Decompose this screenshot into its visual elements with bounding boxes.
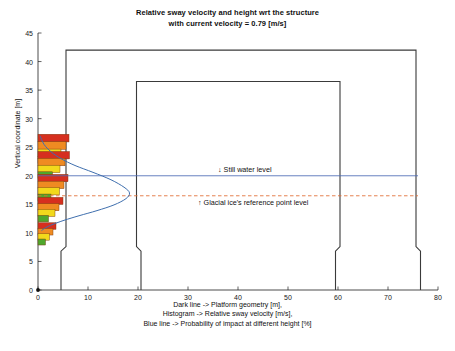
platform-inner-geometry — [137, 82, 341, 290]
y-tick-label: 15 — [14, 201, 33, 208]
caption-line-2: Histogram -> Relative sway velocity [m/s… — [0, 309, 455, 318]
histogram-bar — [38, 134, 69, 142]
y-tick-label: 30 — [14, 115, 33, 122]
y-tick-label: 5 — [14, 258, 33, 265]
histogram-bar — [38, 142, 66, 150]
y-tick-label: 0 — [14, 287, 33, 294]
chart-caption: Dark line -> Platform geometry [m], Hist… — [0, 300, 455, 328]
histogram-bar — [38, 165, 60, 172]
caption-line-3: Blue line -> Probability of impact at di… — [0, 319, 455, 328]
figure-canvas: Relative sway velocity and height wrt th… — [0, 0, 455, 351]
histogram-bar — [38, 239, 46, 245]
y-tick-label: 10 — [14, 229, 33, 236]
histogram-bar — [38, 215, 49, 222]
annotation-still-water: ↓ Still water level — [218, 165, 272, 174]
histogram-bar — [38, 187, 60, 194]
y-tick-label: 40 — [14, 58, 33, 65]
origin-marker — [36, 288, 40, 292]
y-tick-label: 25 — [14, 144, 33, 151]
histogram-bar — [38, 152, 70, 159]
y-tick-label: 45 — [14, 30, 33, 37]
y-tick-label: 35 — [14, 87, 33, 94]
caption-line-1: Dark line -> Platform geometry [m], — [0, 300, 455, 309]
y-tick-label: 20 — [14, 172, 33, 179]
histogram-bar — [38, 158, 65, 165]
annotation-glacial-ice: ↑ Glacial ice's reference point level — [198, 198, 308, 207]
